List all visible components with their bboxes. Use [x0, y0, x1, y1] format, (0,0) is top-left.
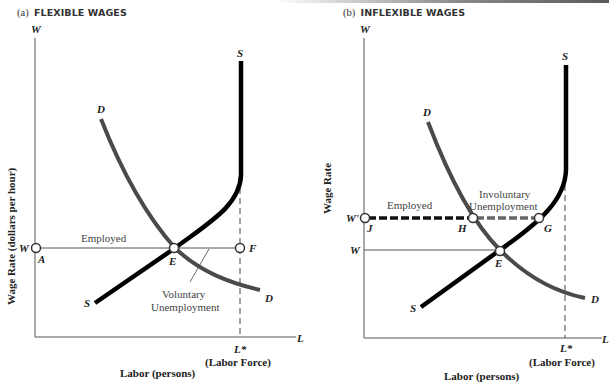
panel-b-supply-curve	[421, 65, 566, 307]
panel-b-employed-label: Employed	[387, 199, 433, 211]
panel-a-supply-label-top: S	[237, 47, 243, 59]
panel-b-point-g	[535, 214, 544, 223]
panel-b-y-label: Wage Rate	[321, 163, 333, 214]
panel-a-y-axis-symbol: W	[31, 23, 42, 35]
panel-a-demand-curve	[101, 119, 260, 290]
panel-b-unemployment-label-1: Involuntary	[479, 188, 531, 200]
panel-b-wage-tick-high: W'	[346, 212, 359, 224]
panel-a-unemployment-pointer	[190, 249, 209, 282]
panel-a-point-a-label: A	[37, 253, 45, 265]
panel-a-unemployment-label-1: Voluntary	[162, 288, 206, 300]
panel-a-supply-label-bottom: S	[84, 297, 90, 309]
panel-a-point-e-label: E	[168, 255, 176, 267]
panel-a-unemployment-label-2: Unemployment	[151, 301, 219, 313]
panel-b-supply-label-bottom: S	[410, 302, 416, 314]
panel-b-point-e-label: E	[494, 257, 502, 269]
panel-a-demand-label-top: D	[96, 103, 105, 115]
panel-a-wage-tick: W	[19, 242, 30, 254]
panel-b-point-j-label: J	[366, 222, 373, 234]
panel-b-supply-label-top: S	[562, 50, 568, 62]
panel-b-demand-label-top: D	[422, 106, 431, 118]
panel-a-point-f-label: F	[248, 242, 257, 254]
panel-b-point-h	[469, 214, 478, 223]
panel-a-point-e	[170, 244, 179, 253]
panel-b-x-label: Labor (persons)	[444, 370, 520, 383]
panel-a-labor-force: (Labor Force)	[205, 356, 271, 369]
panel-a-supply-curve	[95, 61, 241, 303]
panel-a-employed-label: Employed	[81, 232, 127, 244]
panel-b-chart: W L Wage Rate Labor (persons) L* (Labor …	[321, 23, 609, 383]
chart-canvas: W L Wage Rate (dollars per hour) Labor (…	[0, 0, 609, 385]
panel-a-lstar: L*	[233, 343, 247, 355]
panel-a-point-f	[236, 244, 245, 253]
panel-b-demand-label-bottom: D	[590, 293, 599, 305]
panel-b-wage-tick: W	[350, 244, 361, 256]
panel-b-point-h-label: H	[457, 222, 467, 234]
panel-a-chart: W L Wage Rate (dollars per hour) Labor (…	[5, 23, 304, 380]
panel-b-lstar: L*	[559, 342, 573, 354]
panel-a-x-axis-symbol: L	[296, 332, 304, 344]
panel-a-point-a	[32, 244, 41, 253]
panel-a-y-label: Wage Rate (dollars per hour)	[5, 167, 18, 305]
panel-b-point-g-label: G	[544, 222, 552, 234]
panel-b-labor-force: (Labor Force)	[529, 356, 595, 369]
panel-b-unemployment-label-2: Unemployment	[469, 200, 537, 212]
panel-a-demand-label-bottom: D	[264, 292, 273, 304]
panel-a-x-label: Labor (persons)	[120, 367, 196, 380]
panel-b-y-axis-symbol: W	[360, 23, 371, 35]
panel-b-point-e	[496, 247, 505, 256]
panel-b-x-axis-symbol: L	[601, 333, 609, 345]
